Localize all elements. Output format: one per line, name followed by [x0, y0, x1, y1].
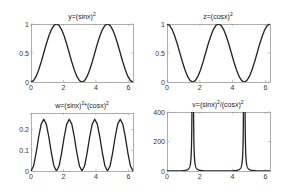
x-tick-label: 2 — [198, 173, 202, 180]
figure: y=(sinx)2 024600.51 z=(cosx)2 024600.51 … — [0, 0, 283, 191]
x-tick-label: 4 — [231, 84, 235, 91]
x-tick-label: 0 — [29, 84, 33, 91]
y-tick-label: 0 — [25, 168, 29, 175]
y-tick-label: 0 — [25, 79, 29, 86]
y-tick-label: 400 — [153, 109, 165, 116]
y-tick-label: 1 — [25, 21, 29, 28]
y-tick-label: 0.2 — [19, 126, 29, 133]
axes-box — [168, 113, 271, 172]
x-tick-label: 6 — [263, 84, 267, 91]
x-tick-label: 6 — [126, 84, 130, 91]
x-tick-label: 0 — [165, 173, 169, 180]
y-tick-label: 1 — [161, 21, 165, 28]
x-tick-label: 2 — [62, 84, 66, 91]
y-tick-label: 0.5 — [155, 50, 165, 57]
x-tick-label: 4 — [94, 84, 98, 91]
subplot-w-product: w=(sinx)2*(cosx)2 024600.10.2 — [19, 100, 133, 180]
y-tick-label: 200 — [153, 138, 165, 145]
data-line — [31, 24, 133, 82]
x-tick-label: 4 — [94, 173, 98, 180]
x-tick-label: 0 — [165, 84, 169, 91]
subplot-title: z=(cosx)2 — [203, 11, 233, 21]
data-line — [193, 24, 244, 172]
data-line — [167, 24, 193, 172]
y-tick-label: 0 — [161, 168, 165, 175]
y-tick-label: 0.5 — [19, 50, 29, 57]
subplot-title: v=(sinx)2/(cosx)2 — [192, 99, 243, 109]
x-tick-label: 4 — [231, 173, 235, 180]
x-tick-label: 6 — [126, 173, 130, 180]
y-tick-label: 0 — [161, 79, 165, 86]
subplot-title: w=(sinx)2*(cosx)2 — [54, 100, 109, 110]
axes-box — [168, 25, 271, 83]
subplot-y-sin-squared: y=(sinx)2 024600.51 — [19, 11, 133, 91]
x-tick-label: 6 — [263, 173, 267, 180]
subplot-z-cos-squared: z=(cosx)2 024600.51 — [155, 11, 270, 91]
subplot-title: y=(sinx)2 — [68, 11, 96, 21]
x-tick-label: 2 — [198, 84, 202, 91]
data-line — [244, 24, 270, 172]
data-line — [31, 119, 133, 171]
subplot-v-ratio: v=(sinx)2/(cosx)2 02460200400 — [153, 24, 270, 181]
x-tick-label: 2 — [62, 173, 66, 180]
y-tick-label: 0.1 — [19, 147, 29, 154]
x-tick-label: 0 — [29, 173, 33, 180]
data-line — [167, 24, 270, 82]
axes-box — [32, 25, 134, 83]
